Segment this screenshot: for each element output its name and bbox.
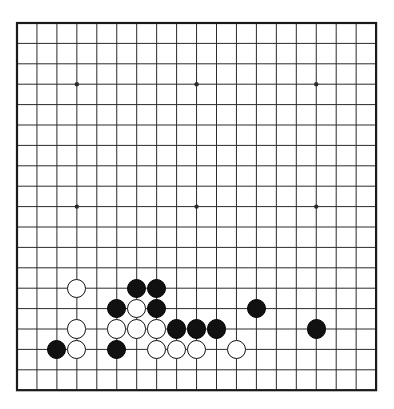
- black-stone[interactable]: [127, 279, 146, 298]
- white-stone[interactable]: [227, 340, 246, 359]
- star-point-icon: [194, 82, 198, 86]
- white-stone[interactable]: [127, 319, 146, 338]
- white-stone[interactable]: [147, 319, 166, 338]
- go-board-container[interactable]: [0, 0, 394, 409]
- black-stone[interactable]: [147, 279, 166, 298]
- star-point-icon: [75, 82, 79, 86]
- white-stone[interactable]: [67, 319, 86, 338]
- black-stone[interactable]: [167, 319, 186, 338]
- black-stone[interactable]: [187, 319, 206, 338]
- black-stone[interactable]: [207, 319, 226, 338]
- black-stone[interactable]: [307, 319, 326, 338]
- white-stone[interactable]: [187, 340, 206, 359]
- black-stone[interactable]: [247, 299, 266, 318]
- star-point-icon: [75, 204, 79, 208]
- white-stone[interactable]: [167, 340, 186, 359]
- star-point-icon: [314, 82, 318, 86]
- star-point-icon: [194, 204, 198, 208]
- star-point-icon: [314, 204, 318, 208]
- white-stone[interactable]: [107, 319, 126, 338]
